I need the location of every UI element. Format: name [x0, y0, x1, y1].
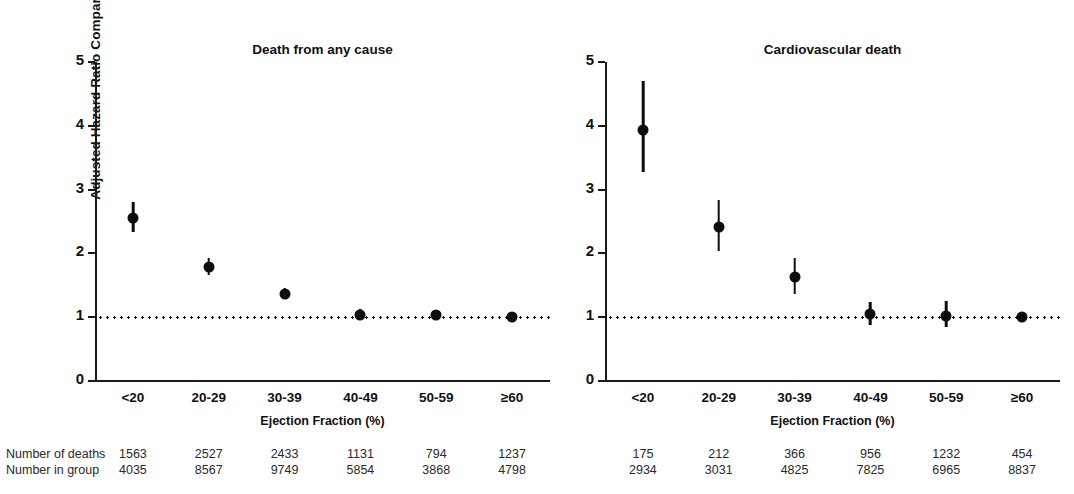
x-axis-tick-label: ≥60: [1011, 390, 1033, 405]
x-axis-title: Ejection Fraction (%): [605, 414, 1060, 428]
x-axis-tick-label: 40-49: [343, 390, 378, 405]
y-axis-tick-label: 1: [62, 306, 84, 324]
count-deaths-cell: 1563: [119, 446, 147, 462]
y-axis-tick: 2: [88, 252, 95, 254]
count-deaths-cell: 1131: [347, 446, 374, 462]
count-deaths-cell: 794: [426, 446, 447, 462]
data-point: [507, 312, 518, 323]
data-point: [713, 221, 724, 232]
count-deaths-cell: 956: [860, 446, 881, 462]
count-group-cell: 3868: [422, 462, 450, 478]
x-axis-tick-label: 30-39: [267, 390, 302, 405]
count-group-cell: 4825: [781, 462, 809, 478]
y-axis-tick-label: 5: [62, 51, 84, 69]
data-point: [1017, 312, 1028, 323]
y-axis-tick: 1: [88, 316, 95, 318]
y-axis-tick-label: 1: [572, 306, 594, 324]
y-axis-tick: 2: [598, 252, 605, 254]
counts-row-labels: Number of deaths Number in group: [6, 446, 105, 478]
data-point: [637, 124, 648, 135]
panel-death-any-cause: Death from any cause 012345 Ejection Fra…: [0, 0, 560, 494]
x-axis-tick-label: 20-29: [701, 390, 736, 405]
data-point: [865, 309, 876, 320]
count-deaths-cell: 1232: [932, 446, 960, 462]
y-axis-tick-label: 4: [62, 115, 84, 133]
count-deaths-cell: 2433: [271, 446, 299, 462]
data-point: [431, 310, 442, 321]
data-point: [279, 288, 290, 299]
count-group-cell: 8567: [195, 462, 223, 478]
y-axis-tick: 1: [598, 316, 605, 318]
y-axis-tick-label: 0: [572, 370, 594, 388]
y-axis-tick: 0: [88, 380, 95, 382]
count-group-cell: 6965: [932, 462, 960, 478]
y-axis-tick: 4: [88, 125, 95, 127]
reference-line: [607, 316, 1060, 319]
x-axis-line: [605, 380, 1060, 382]
panel-cardiovascular-death: Cardiovascular death 012345 Ejection Fra…: [560, 0, 1074, 494]
count-group-cell: 3031: [705, 462, 733, 478]
count-deaths-cell: 2527: [195, 446, 223, 462]
data-point: [127, 212, 138, 223]
x-axis-tick-label: 20-29: [191, 390, 226, 405]
count-deaths-cell: 366: [784, 446, 805, 462]
x-axis-title: Ejection Fraction (%): [95, 414, 550, 428]
x-axis-tick-label: 50-59: [419, 390, 454, 405]
y-axis-tick-label: 3: [62, 179, 84, 197]
counts-label-deaths: Number of deaths: [6, 446, 105, 462]
y-axis-tick-label: 4: [572, 115, 594, 133]
y-axis-tick: 3: [88, 189, 95, 191]
count-group-cell: 5854: [347, 462, 375, 478]
y-axis-tick: 0: [598, 380, 605, 382]
y-axis-tick-label: 0: [62, 370, 84, 388]
count-deaths-cell: 454: [1012, 446, 1033, 462]
count-deaths-cell: 212: [708, 446, 729, 462]
counts-label-group: Number in group: [6, 462, 105, 478]
x-axis-tick-label: <20: [121, 390, 144, 405]
count-deaths-cell: 1237: [498, 446, 526, 462]
y-axis-tick: 5: [598, 61, 605, 63]
count-group-cell: 4035: [119, 462, 147, 478]
y-axis-tick-label: 3: [572, 179, 594, 197]
count-group-cell: 2934: [629, 462, 657, 478]
y-axis-line: [605, 62, 607, 381]
y-axis-tick: 5: [88, 61, 95, 63]
y-axis-tick-label: 5: [572, 51, 594, 69]
count-group-cell: 7825: [857, 462, 885, 478]
data-point: [789, 272, 800, 283]
reference-line: [97, 316, 550, 319]
y-axis-line: [95, 62, 97, 381]
count-group-cell: 9749: [271, 462, 299, 478]
x-axis-tick-label: <20: [631, 390, 654, 405]
panel-title: Death from any cause: [95, 42, 550, 57]
figure-root: Adjusted Hazard Ratio Compared to EF ≥ 6…: [0, 0, 1074, 494]
data-point: [355, 309, 366, 320]
y-axis-tick: 4: [598, 125, 605, 127]
data-point: [203, 261, 214, 272]
panel-title: Cardiovascular death: [605, 42, 1060, 57]
x-axis-line: [95, 380, 550, 382]
x-axis-tick-labels: <2020-2930-3940-4950-59≥60: [605, 390, 1060, 410]
x-axis-tick-label: ≥60: [501, 390, 523, 405]
plot-area: 012345: [95, 62, 550, 381]
x-axis-tick-label: 50-59: [929, 390, 964, 405]
y-axis-tick: 3: [598, 189, 605, 191]
count-group-cell: 4798: [498, 462, 526, 478]
count-group-cell: 8837: [1008, 462, 1036, 478]
x-axis-tick-labels: <2020-2930-3940-4950-59≥60: [95, 390, 550, 410]
plot-area: 012345: [605, 62, 1060, 381]
count-deaths-cell: 175: [632, 446, 653, 462]
y-axis-tick-label: 2: [572, 242, 594, 260]
x-axis-tick-label: 40-49: [853, 390, 888, 405]
data-point: [941, 310, 952, 321]
y-axis-tick-label: 2: [62, 242, 84, 260]
x-axis-tick-label: 30-39: [777, 390, 812, 405]
